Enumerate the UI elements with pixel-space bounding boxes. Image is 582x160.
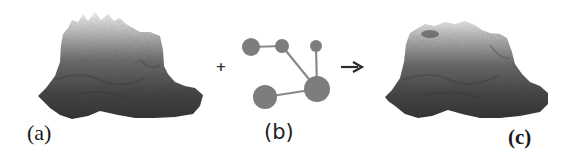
terrain-input-shape — [38, 12, 203, 119]
graph-node — [253, 85, 277, 109]
graph-node — [310, 40, 322, 52]
arrow-icon — [341, 62, 362, 72]
panel-label-a: (a) — [27, 122, 51, 144]
panel-label-b: (b) — [264, 122, 294, 143]
graph-node — [242, 38, 260, 56]
panel-label-c: (c) — [508, 127, 531, 148]
panel-b-graph — [242, 38, 330, 109]
graph-node — [304, 76, 330, 102]
panel-a — [38, 12, 203, 119]
panel-c — [385, 21, 548, 118]
graph-node — [275, 39, 289, 53]
plus-operator: + — [216, 59, 227, 74]
terrain-output-crater — [421, 30, 439, 38]
terrain-output-shape — [385, 21, 548, 118]
